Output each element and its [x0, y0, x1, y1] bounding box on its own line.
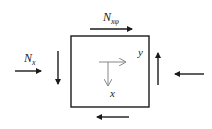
force-diagram: Nxφ Nx x y — [0, 0, 212, 129]
axis-y-label: y — [137, 46, 143, 58]
shear-force-label: Nxφ — [102, 10, 120, 26]
axis-x-label: x — [109, 87, 115, 99]
normal-force-label: Nx — [23, 51, 36, 67]
